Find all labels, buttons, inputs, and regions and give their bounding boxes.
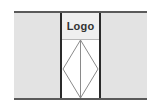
logo-box[interactable]: Logo: [62, 13, 99, 40]
left-side-panel: [14, 13, 60, 98]
right-side-panel: [101, 13, 147, 98]
bottom-rule: [14, 98, 147, 100]
wireframe-layout: Logo: [14, 11, 147, 100]
image-placeholder-icon: [62, 40, 99, 98]
center-column: Logo: [60, 13, 101, 98]
logo-label: Logo: [67, 20, 95, 32]
image-placeholder: [62, 40, 99, 98]
